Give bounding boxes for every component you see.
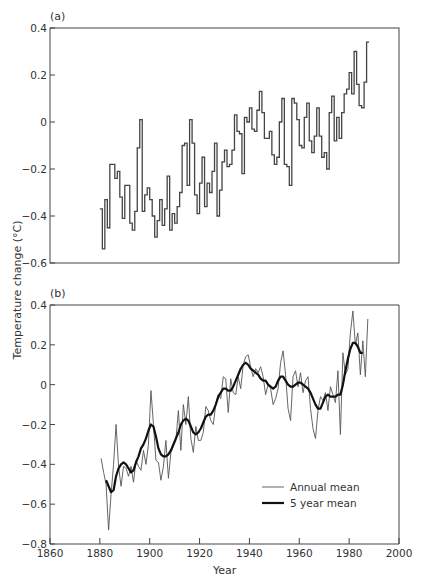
y-tick-label: 0.4 bbox=[30, 22, 47, 34]
panel-a: (a) −0.6−0.4−0.200.20.4 bbox=[22, 10, 400, 269]
panel-b-label: (b) bbox=[50, 287, 66, 300]
legend: Annual mean 5 year mean bbox=[262, 481, 360, 509]
x-tick-label: 1900 bbox=[136, 547, 163, 559]
y-tick-label: 0 bbox=[40, 116, 47, 128]
y-tick-label: −0.2 bbox=[22, 163, 48, 175]
x-tick-label: 1960 bbox=[286, 547, 313, 559]
panel-b: (b) −0.8−0.6−0.4−0.200.20.4 186018801900… bbox=[22, 287, 413, 559]
temperature-change-figure: (a) −0.6−0.4−0.200.20.4 Temperature chan… bbox=[0, 0, 421, 585]
y-tick-label: −0.6 bbox=[22, 257, 48, 269]
y-tick-label: −0.4 bbox=[22, 458, 48, 470]
x-tick-label: 1940 bbox=[236, 547, 263, 559]
y-tick-label: 0.2 bbox=[30, 69, 47, 81]
x-axis-title: Year bbox=[212, 564, 237, 577]
panel-a-label: (a) bbox=[50, 10, 65, 23]
panel-a-annual-step-line bbox=[100, 42, 369, 249]
y-tick-label: 0 bbox=[40, 379, 47, 391]
legend-five-year-label: 5 year mean bbox=[290, 497, 357, 509]
x-tick-label: 1920 bbox=[186, 547, 213, 559]
y-axis-title: Temperature change (°C) bbox=[11, 221, 24, 361]
y-tick-label: −0.4 bbox=[22, 210, 48, 222]
x-tick-label: 2000 bbox=[386, 547, 413, 559]
y-tick-label: −0.2 bbox=[22, 419, 48, 431]
y-tick-label: 0.2 bbox=[30, 339, 47, 351]
x-tick-label: 1860 bbox=[37, 547, 64, 559]
panel-b-x-axis: 18601880190019201940196019802000 bbox=[37, 538, 413, 559]
panel-b-five-year-mean-line bbox=[106, 343, 363, 492]
y-tick-label: −0.6 bbox=[22, 498, 48, 510]
legend-annual-label: Annual mean bbox=[290, 481, 360, 493]
x-tick-label: 1880 bbox=[86, 547, 113, 559]
x-tick-label: 1980 bbox=[336, 547, 363, 559]
y-tick-label: 0.4 bbox=[30, 299, 47, 311]
